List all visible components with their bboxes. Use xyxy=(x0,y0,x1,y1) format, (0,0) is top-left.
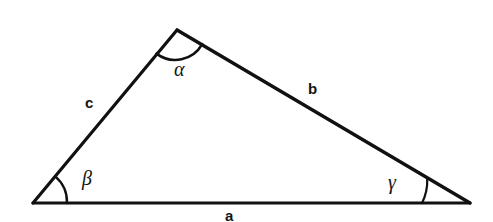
side-label-c: c xyxy=(85,95,93,110)
side-label-b: b xyxy=(308,81,317,96)
side-b-line xyxy=(177,30,470,203)
triangle-diagram: c b a α β γ xyxy=(0,0,493,222)
angle-gamma-arc xyxy=(422,179,427,203)
angle-label-beta: β xyxy=(82,168,92,188)
angle-label-alpha: α xyxy=(174,59,185,79)
angle-beta-arc xyxy=(55,176,67,203)
triangle-figure-svg xyxy=(0,0,493,222)
angle-label-gamma: γ xyxy=(388,172,396,192)
side-label-a: a xyxy=(225,208,233,222)
